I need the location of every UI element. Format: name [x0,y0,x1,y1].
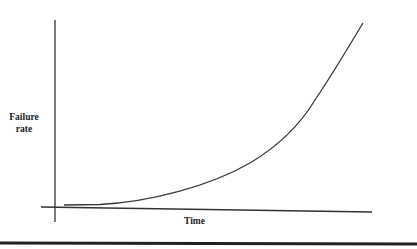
x-axis-label: Time [184,216,205,226]
x-axis [41,207,372,212]
failure-rate-curve [64,23,363,205]
bottom-rule [0,243,417,244]
y-axis-label-line-2: rate [4,123,44,135]
y-axis-label: Failure rate [4,111,44,135]
chart-canvas [0,0,417,249]
y-axis-label-line-1: Failure [4,111,44,123]
